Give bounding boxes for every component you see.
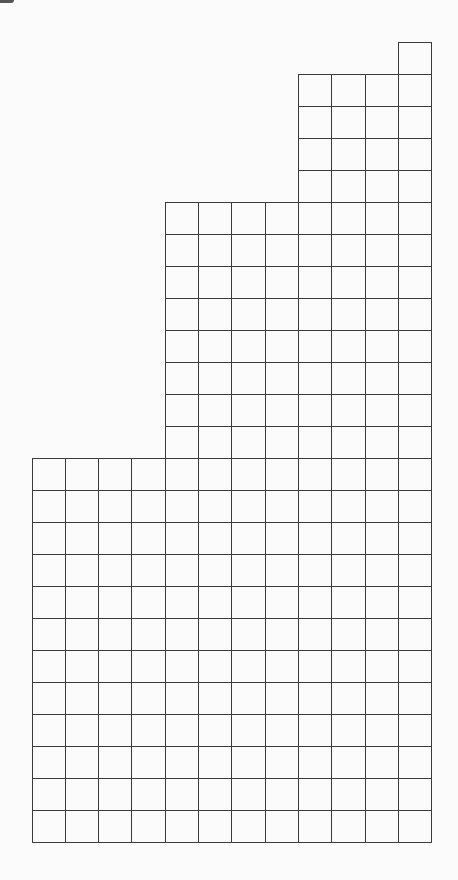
grid-cell — [365, 330, 399, 363]
grid-cell — [231, 586, 265, 619]
grid-cell — [398, 138, 432, 171]
grid-cell — [298, 106, 332, 139]
grid-cell — [298, 618, 332, 651]
grid-cell — [165, 554, 199, 587]
grid-cell — [331, 330, 365, 363]
grid-cell — [331, 618, 365, 651]
grid-cell — [98, 682, 132, 715]
grid-cell — [331, 778, 365, 811]
grid-cell — [298, 458, 332, 491]
grid-cell — [231, 618, 265, 651]
grid-cell — [98, 650, 132, 683]
grid-cell — [365, 266, 399, 299]
grid-cell — [198, 682, 232, 715]
grid-cell — [165, 714, 199, 747]
grid-cell — [398, 394, 432, 427]
grid-cell — [32, 810, 66, 843]
grid-cell — [365, 586, 399, 619]
grid-cell — [98, 618, 132, 651]
grid-cell — [198, 330, 232, 363]
grid-cell — [398, 618, 432, 651]
grid-cell — [165, 522, 199, 555]
grid-cell — [331, 298, 365, 331]
grid-cell — [198, 362, 232, 395]
grid-cell — [265, 298, 299, 331]
grid-cell — [331, 554, 365, 587]
grid-cell — [365, 810, 399, 843]
grid-cell — [331, 522, 365, 555]
grid-cell — [32, 746, 66, 779]
grid-cell — [365, 490, 399, 523]
grid-cell — [331, 714, 365, 747]
grid-cell — [365, 106, 399, 139]
grid-cell — [298, 170, 332, 203]
grid-cell — [65, 490, 99, 523]
grid-cell — [198, 522, 232, 555]
grid-cell — [298, 362, 332, 395]
grid-cell — [265, 490, 299, 523]
grid-cell — [365, 426, 399, 459]
grid-cell — [265, 522, 299, 555]
grid-cell — [198, 746, 232, 779]
grid-cell — [131, 682, 165, 715]
grid-cell — [65, 650, 99, 683]
grid-cell — [198, 394, 232, 427]
grid-cell — [231, 426, 265, 459]
grid-cell — [331, 490, 365, 523]
grid-cell — [32, 522, 66, 555]
grid-cell — [131, 810, 165, 843]
grid-cell — [198, 298, 232, 331]
grid-cell — [231, 714, 265, 747]
grid-cell — [198, 554, 232, 587]
grid-cell — [198, 234, 232, 267]
grid-cell — [198, 650, 232, 683]
grid-cell — [165, 330, 199, 363]
grid-cell — [65, 746, 99, 779]
grid-cell — [265, 458, 299, 491]
grid-cell — [32, 778, 66, 811]
grid-cell — [398, 714, 432, 747]
grid-cell — [365, 298, 399, 331]
grid-cell — [398, 458, 432, 491]
grid-cell — [131, 522, 165, 555]
grid-cell — [265, 618, 299, 651]
grid-cell — [198, 426, 232, 459]
grid-cell — [298, 746, 332, 779]
grid-cell — [298, 586, 332, 619]
grid-cell — [231, 362, 265, 395]
grid-cell — [365, 138, 399, 171]
grid-cell — [65, 554, 99, 587]
grid-cell — [198, 266, 232, 299]
grid-cell — [131, 778, 165, 811]
grid-cell — [265, 234, 299, 267]
grid-cell — [165, 810, 199, 843]
grid-cell — [398, 234, 432, 267]
grid-cell — [32, 490, 66, 523]
grid-cell — [298, 234, 332, 267]
grid-cell — [65, 778, 99, 811]
grid-cell — [331, 234, 365, 267]
grid-cell — [131, 554, 165, 587]
grid-cell — [65, 586, 99, 619]
grid-cell — [265, 330, 299, 363]
grid-cell — [98, 810, 132, 843]
grid-cell — [231, 554, 265, 587]
grid-cell — [331, 74, 365, 107]
grid-cell — [131, 490, 165, 523]
grid-cell — [165, 426, 199, 459]
grid-cell — [298, 714, 332, 747]
grid-cell — [98, 554, 132, 587]
grid-cell — [365, 74, 399, 107]
grid-cell — [165, 234, 199, 267]
grid-cell — [165, 266, 199, 299]
grid-cell — [165, 746, 199, 779]
grid-cell — [331, 682, 365, 715]
grid-cell — [398, 330, 432, 363]
grid-cell — [198, 714, 232, 747]
grid-cell — [365, 618, 399, 651]
grid-cell — [198, 778, 232, 811]
grid-cell — [231, 234, 265, 267]
grid-cell — [365, 554, 399, 587]
grid-cell — [298, 522, 332, 555]
grid-cell — [298, 650, 332, 683]
